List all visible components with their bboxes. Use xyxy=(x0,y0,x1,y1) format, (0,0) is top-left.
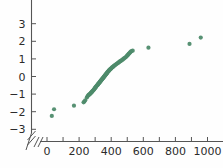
x-tick-label: 800 xyxy=(165,145,186,158)
y-tick-label: 1 xyxy=(19,53,26,66)
data-point xyxy=(199,36,203,40)
data-points-group xyxy=(50,36,203,119)
y-tick-label: 3 xyxy=(19,18,26,31)
data-point xyxy=(131,49,135,53)
data-point xyxy=(52,107,56,111)
data-point xyxy=(72,104,76,108)
y-tick-label: −3 xyxy=(9,123,25,136)
x-tick-label: 0 xyxy=(44,145,51,158)
y-tick-label: −1 xyxy=(9,88,25,101)
scatter-chart: −3−2−1012302004006008001000 xyxy=(0,0,223,168)
data-point xyxy=(50,114,54,118)
y-tick-label: 2 xyxy=(19,35,26,48)
data-point xyxy=(146,46,150,50)
x-tick-label: 600 xyxy=(133,145,154,158)
chart-canvas: −3−2−1012302004006008001000 xyxy=(0,0,223,168)
x-tick-label: 400 xyxy=(101,145,122,158)
axis-break-marker xyxy=(26,131,43,150)
x-tick-label: 1000 xyxy=(194,145,222,158)
data-point xyxy=(187,42,191,46)
x-tick-label: 200 xyxy=(69,145,90,158)
y-tick-label: −2 xyxy=(9,106,25,119)
y-tick-label: 0 xyxy=(19,71,26,84)
